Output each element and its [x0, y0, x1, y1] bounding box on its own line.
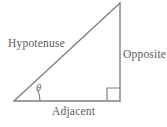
hypotenuse-label: Hypotenuse — [8, 38, 65, 50]
theta-angle-label: θ — [36, 83, 41, 94]
hypotenuse-side-line — [14, 3, 120, 101]
trigonometry-figure: Hypotenuse Opposite Adjacent θ — [0, 0, 167, 127]
right-angle-marker — [107, 88, 120, 101]
adjacent-label: Adjacent — [52, 106, 95, 118]
opposite-label: Opposite — [123, 49, 166, 61]
